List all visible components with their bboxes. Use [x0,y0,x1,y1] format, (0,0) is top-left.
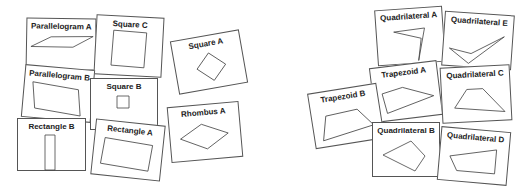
card-square-a[interactable]: Square A [170,29,248,94]
card-square-c[interactable]: Square C [93,14,164,77]
card-quadrilateral-d[interactable]: Quadrilateral D [437,126,511,186]
rectangle-shape [91,120,166,183]
parallelogram-shape [27,18,98,71]
parallelogram-shape [22,65,96,124]
card-quadrilateral-a[interactable]: Quadrilateral A [374,6,446,67]
card-parallelogram-a[interactable]: Parallelogram A [26,17,97,70]
card-rhombus-a[interactable]: Rhombus A [167,101,244,163]
square-shape [94,15,165,78]
quadrilateral-shape [442,12,516,72]
quadrilateral-shape [373,123,441,178]
rectangle-shape [18,119,87,172]
card-rectangle-a[interactable]: Rectangle A [90,118,165,181]
square-shape [171,30,249,95]
rhombus-shape [168,102,245,164]
card-parallelogram-b[interactable]: Parallelogram B [21,64,95,123]
card-quadrilateral-c[interactable]: Quadrilateral C [440,64,513,124]
card-quadrilateral-b[interactable]: Quadrilateral B [372,122,440,177]
card-rectangle-b[interactable]: Rectangle B [17,118,86,171]
quadrilateral-shape [438,127,512,187]
quadrilateral-shape [441,65,514,125]
quadrilateral-shape [375,7,447,68]
card-quadrilateral-e[interactable]: Quadrilateral E [441,11,515,71]
